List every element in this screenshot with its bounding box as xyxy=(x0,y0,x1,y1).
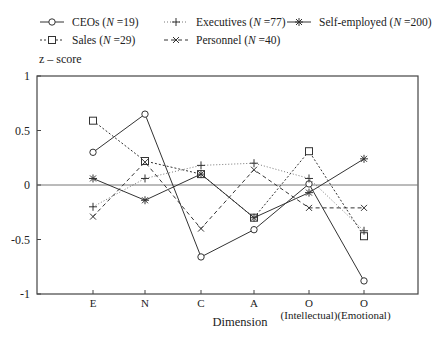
x-axis-title: Dimension xyxy=(180,315,300,330)
series-star xyxy=(89,155,368,222)
plot-area xyxy=(0,0,433,338)
x-tick-label: O(Emotional) xyxy=(324,297,404,321)
series-cross xyxy=(90,159,367,231)
series-square xyxy=(90,117,368,240)
